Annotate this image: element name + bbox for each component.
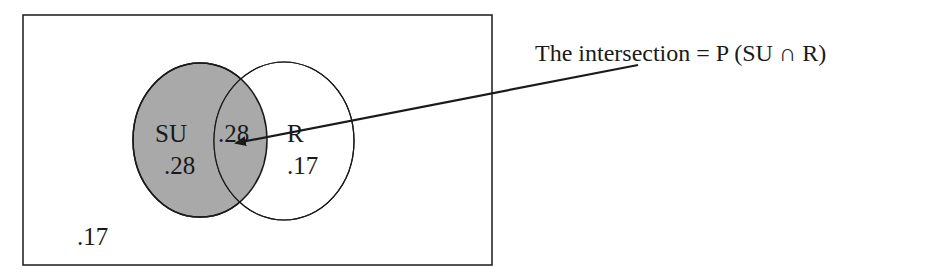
set-su-label: SU — [155, 120, 187, 147]
set-r-only-value: .17 — [287, 152, 318, 179]
set-su-only-value: .28 — [164, 152, 195, 179]
annotation-text: The intersection = P (SU ∩ R) — [535, 40, 826, 66]
universe-value: .17 — [77, 223, 108, 250]
venn-diagram: SU .28 .28 R .17 .17 The intersection = … — [0, 0, 932, 278]
intersection-value: .28 — [218, 120, 249, 147]
